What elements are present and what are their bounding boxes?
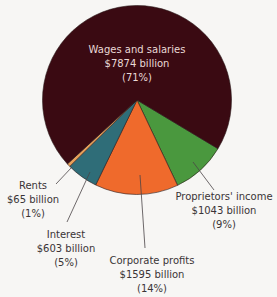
label-value: $603 billion: [37, 243, 96, 254]
label-value: $7874 billion: [105, 58, 170, 69]
label-name: Interest: [47, 229, 86, 240]
label-percent: (9%): [212, 219, 236, 230]
label-name: Rents: [19, 180, 47, 191]
label-proprietors-income: Proprietors' income $1043 billion (9%): [175, 191, 272, 230]
label-interest: Interest $603 billion (5%): [37, 229, 96, 268]
label-percent: (1%): [21, 208, 45, 219]
label-name: Wages and salaries: [89, 44, 186, 55]
label-value: $65 billion: [7, 194, 59, 205]
label-value: $1043 billion: [192, 205, 257, 216]
pie-slices: [42, 5, 231, 194]
label-value: $1595 billion: [120, 269, 185, 280]
label-corporate-profits: Corporate profits $1595 billion (14%): [110, 255, 195, 294]
leader-line-rents: [56, 167, 72, 184]
label-name: Proprietors' income: [175, 191, 272, 202]
label-percent: (14%): [137, 283, 167, 294]
label-name: Corporate profits: [110, 255, 195, 266]
label-percent: (71%): [122, 72, 152, 83]
label-rents: Rents $65 billion (1%): [7, 180, 59, 219]
leader-line-interest: [67, 172, 90, 222]
pie-chart: Wages and salaries $7874 billion (71%) R…: [0, 0, 277, 297]
label-percent: (5%): [54, 257, 78, 268]
